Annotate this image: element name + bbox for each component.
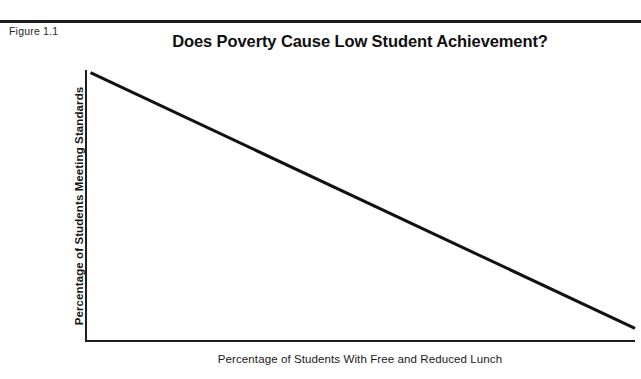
figure-label: Figure 1.1 <box>9 25 58 37</box>
clipped-text-above <box>0 0 641 3</box>
plot-area: Percentage of Students Meeting Standards… <box>85 70 635 342</box>
figure-container: Figure 1.1 Does Poverty Cause Low Studen… <box>0 0 641 379</box>
chart-title: Does Poverty Cause Low Student Achieveme… <box>85 32 635 51</box>
y-axis-label-text: Percentage of Students Meeting Standards <box>73 87 85 326</box>
plot-svg <box>85 70 635 342</box>
x-axis-label: Percentage of Students With Free and Red… <box>85 353 635 365</box>
y-axis-label: Percentage of Students Meeting Standards <box>71 70 87 342</box>
trend-line <box>91 73 636 329</box>
figure-top-rule <box>0 20 641 23</box>
